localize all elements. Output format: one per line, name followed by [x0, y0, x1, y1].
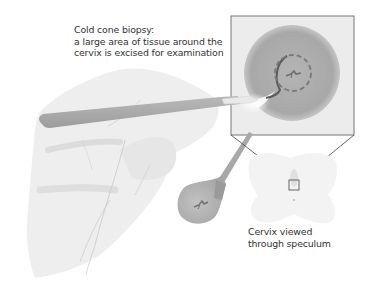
speculum-caption-line2: through speculum	[248, 238, 331, 250]
speculum-caption-line1: Cervix viewed	[248, 226, 331, 238]
magnified-view-box	[231, 16, 354, 135]
excised-cone	[178, 132, 253, 224]
speculum-caption: Cervix viewed through speculum	[248, 226, 331, 249]
procedure-caption: Cold cone biopsy: a large area of tissue…	[74, 24, 223, 59]
hand	[27, 68, 219, 278]
procedure-caption-line3: cervix is excised for examination	[74, 47, 223, 59]
cone-biopsy-diagram: Cold cone biopsy: a large area of tissue…	[0, 0, 371, 283]
procedure-caption-line2: a large area of tissue around the	[74, 36, 223, 48]
speculum-view	[248, 153, 337, 223]
procedure-caption-line1: Cold cone biopsy:	[74, 24, 223, 36]
